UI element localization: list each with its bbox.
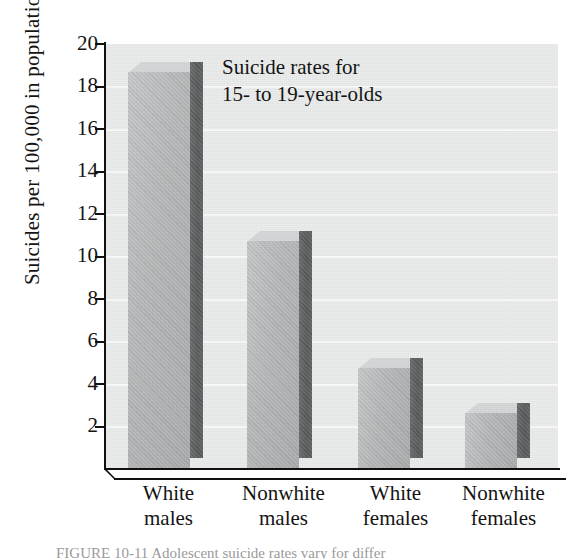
x-tick-label-nonwhite-males: Nonwhite males [221,481,346,531]
chart-title: Suicide rates for15- to 19-year-olds [222,54,383,109]
bar-front-face [128,72,190,468]
y-tick-label: 18 [58,75,98,96]
y-tick [95,171,106,173]
bar-white-males [128,72,190,468]
y-tick-label: 12 [58,203,98,224]
chart-figure: Suicides per 100,000 in population 20 18… [0,0,585,559]
bar-side-face [299,231,312,458]
y-tick-label: 16 [58,118,98,139]
x-tick-label-white-females: White females [333,481,458,531]
x-axis-tick-labels: White males Nonwhite males White females… [106,481,566,541]
bar-white-females [358,368,410,468]
bar-nonwhite-males [247,241,299,468]
x-axis-line [104,468,560,470]
bar-side-face [410,358,423,458]
bar-front-face [358,368,410,468]
y-tick [95,383,106,385]
y-tick [95,43,106,45]
floor-corner-bevel [104,468,116,480]
bar-front-face [247,241,299,468]
y-tick-label: 10 [58,245,98,266]
y-tick-label: 8 [58,288,98,309]
floor-front-edge [114,478,566,480]
y-tick-label: 20 [58,33,98,54]
y-tick [95,341,106,343]
y-tick-label: 4 [58,373,98,394]
x-tick-label-white-males: White males [106,481,231,531]
x-tick-label-nonwhite-females: Nonwhite females [441,481,566,531]
chart-title-line-2: 15- to 19-year-olds [222,82,383,106]
bar-side-face [190,62,203,458]
y-tick [95,86,106,88]
y-tick [95,213,106,215]
y-tick [95,128,106,130]
y-tick-label: 6 [58,330,98,351]
chart-title-line-1: Suicide rates for [222,55,360,79]
bar-front-face [465,413,517,468]
y-tick [95,298,106,300]
y-tick-label: 2 [58,415,98,436]
y-axis-tick-labels: 20 18 16 14 12 10 8 6 4 2 [50,0,98,559]
y-tick [95,426,106,428]
bar-nonwhite-females [465,413,517,468]
bar-side-face [517,403,530,458]
y-tick [95,256,106,258]
y-tick-label: 14 [58,160,98,181]
figure-caption: FIGURE 10-11 Adolescent suicide rates va… [56,545,556,559]
